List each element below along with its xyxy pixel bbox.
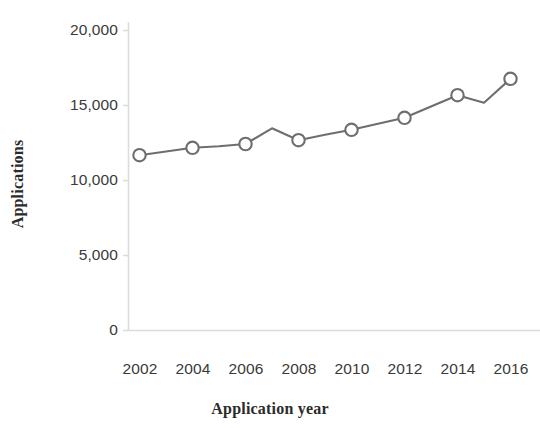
y-tick-label-5000: 5,000 [28, 246, 118, 264]
data-point-2002 [133, 149, 145, 161]
x-axis-title: Application year [0, 400, 540, 418]
y-axis-title: Applications [9, 104, 27, 264]
y-tick-label-15000: 15,000 [28, 96, 118, 114]
y-tick-label-10000: 10,000 [28, 171, 118, 189]
x-tick-label-2010: 2010 [325, 360, 379, 378]
data-point-2004 [186, 142, 198, 154]
data-point-2012 [398, 112, 410, 124]
data-point-2010 [345, 124, 357, 136]
x-tick-label-2002: 2002 [113, 360, 167, 378]
data-point-2014 [451, 89, 463, 101]
x-tick-label-2012: 2012 [378, 360, 432, 378]
data-point-2006 [239, 138, 251, 150]
line-chart: 20,000 15,000 10,000 5,000 0 2002 2004 2… [0, 0, 540, 428]
x-tick-label-2008: 2008 [272, 360, 326, 378]
series-markers [133, 73, 516, 162]
data-point-2008 [292, 134, 304, 146]
data-point-2016 [504, 73, 516, 85]
y-tick-marks [123, 31, 129, 331]
y-tick-label-20000: 20,000 [28, 21, 118, 39]
series-applications [133, 73, 516, 162]
x-tick-label-2016: 2016 [484, 360, 538, 378]
x-tick-label-2004: 2004 [166, 360, 220, 378]
x-tick-label-2014: 2014 [431, 360, 485, 378]
y-tick-label-0: 0 [28, 321, 118, 339]
x-tick-label-2006: 2006 [219, 360, 273, 378]
